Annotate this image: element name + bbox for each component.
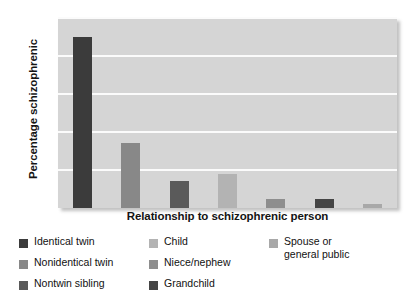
gridline: [58, 17, 397, 19]
legend-label: Nontwin sibling: [34, 277, 105, 290]
plot-area: [58, 18, 397, 208]
gridline: [58, 55, 397, 57]
gridline: [58, 169, 397, 171]
bar-chart-figure: Percentage schizophrenic 1020304050 Rela…: [0, 0, 414, 306]
legend-swatch-icon: [19, 281, 28, 290]
legend-column-2: ChildNiece/nephewGrandchild: [149, 235, 231, 298]
legend-swatch-icon: [19, 260, 28, 269]
legend-item: Spouse or general public: [269, 235, 349, 267]
legend-column-3: Spouse or general public: [269, 235, 349, 267]
bar-nontwin-sibling: [170, 181, 189, 208]
legend-item: Identical twin: [19, 235, 113, 256]
bar-spouse-or-general-public: [363, 204, 382, 208]
bar-niece-nephew: [266, 199, 285, 209]
bar-identical-twin: [73, 37, 92, 208]
legend-item: Grandchild: [149, 277, 231, 298]
legend-item: Niece/nephew: [149, 256, 231, 277]
legend-label: Niece/nephew: [164, 256, 231, 269]
plot-inner: [58, 18, 397, 208]
gridline: [58, 131, 397, 133]
legend-item: Nonidentical twin: [19, 256, 113, 277]
legend-label: Identical twin: [34, 235, 95, 248]
legend-item: Nontwin sibling: [19, 277, 113, 298]
legend-label: Grandchild: [164, 277, 215, 290]
gridline: [58, 93, 397, 95]
bar-nonidentical-twin: [121, 143, 140, 208]
legend-swatch-icon: [149, 281, 158, 290]
legend-column-1: Identical twinNonidentical twinNontwin s…: [19, 235, 113, 298]
legend-swatch-icon: [149, 239, 158, 248]
bar-grandchild: [315, 199, 334, 209]
bar-child: [218, 174, 237, 208]
x-axis-title: Relationship to schizophrenic person: [58, 210, 397, 222]
chart-legend: Identical twinNonidentical twinNontwin s…: [19, 235, 409, 303]
legend-swatch-icon: [269, 239, 278, 248]
legend-swatch-icon: [149, 260, 158, 269]
legend-label: Child: [164, 235, 188, 248]
legend-label: Nonidentical twin: [34, 256, 113, 269]
legend-swatch-icon: [19, 239, 28, 248]
legend-item: Child: [149, 235, 231, 256]
legend-label: Spouse or general public: [284, 235, 349, 260]
